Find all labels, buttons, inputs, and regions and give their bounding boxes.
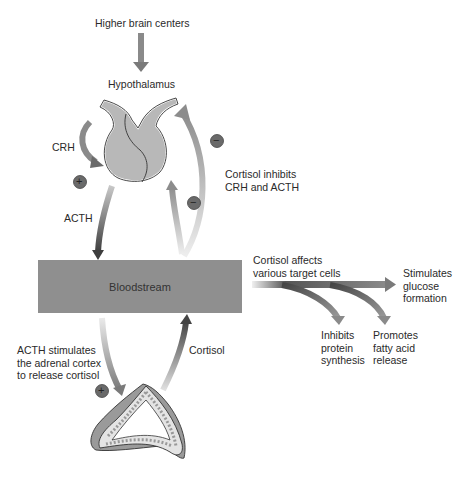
plus-sign: + [98,384,104,397]
arrow-stimulates-glucose [252,277,396,292]
diagram-canvas [0,0,470,477]
pituitary-gland-icon [100,98,178,182]
hypothalamus-label: Hypothalamus [108,78,175,91]
acth-stimulates-label: ACTH stimulates the adrenal cortex to re… [17,344,101,382]
minus-sign: − [190,196,196,209]
cortisol-inhibits-label: Cortisol inhibits CRH and ACTH [225,168,299,193]
acth-label: ACTH [64,212,93,225]
arrow-inhibits-protein [282,285,345,325]
stimulates-glucose-label: Stimulates glucose formation [403,267,452,305]
plus-sign: + [76,175,82,188]
promotes-fatty-label: Promotes fatty acid release [373,329,418,367]
bloodstream-box: Bloodstream [38,260,242,313]
inhibits-protein-label: Inhibits protein synthesis [321,329,365,367]
arrow-cortisol-up [163,314,192,390]
bloodstream-label: Bloodstream [109,281,171,293]
arrow-acth-down [92,186,112,260]
arrow-brain-to-hypothalamus [133,33,149,72]
arrow-acth-to-adrenal [102,318,126,396]
minus-sign: − [213,134,219,147]
cortisol-label: Cortisol [189,344,225,357]
arrow-feedback-pituitary [166,180,182,254]
higher-brain-centers-label: Higher brain centers [95,17,190,30]
arrow-crh [82,122,104,168]
cortisol-affects-label: Cortisol affects various target cells [253,254,341,279]
crh-label: CRH [52,141,75,154]
